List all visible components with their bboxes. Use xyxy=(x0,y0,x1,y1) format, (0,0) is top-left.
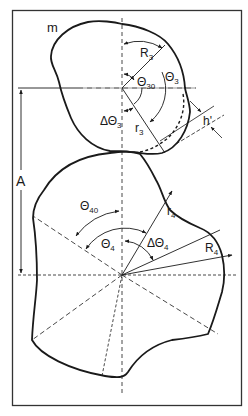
diagram-frame xyxy=(13,11,242,406)
upper-radius-min-label: r3 xyxy=(135,121,144,137)
upper-angle-initial-label: Θ30 xyxy=(137,75,156,91)
upper-angle-label: Θ3 xyxy=(165,70,179,86)
lower-radial-lower-left xyxy=(32,275,122,340)
center-distance-label: A xyxy=(16,173,26,189)
offset-line-inner xyxy=(176,115,224,144)
lower-radius-min-line xyxy=(122,191,172,275)
upper-radius-min-line xyxy=(122,88,165,153)
upper-angle-arc xyxy=(150,72,166,122)
lower-radius-min-label: r4 xyxy=(167,204,176,220)
offset-arrow-upper xyxy=(190,101,201,112)
lower-angle-arc xyxy=(86,228,146,249)
lower-radius-max-line xyxy=(122,255,232,275)
lower-angle-label: Θ4 xyxy=(101,237,115,253)
offset-arrow-lower xyxy=(211,127,222,138)
cam-geometry-diagram: m R3 Θ30 Θ3 ΔΘ3 r3 h' A Θ40 r4 Θ4 ΔΘ4 R4 xyxy=(0,0,248,416)
upper-angle-delta-arc xyxy=(124,108,133,111)
lower-radial-bottom xyxy=(102,275,122,376)
upper-angle-delta-label: ΔΘ3 xyxy=(100,114,122,130)
offset-label: h' xyxy=(203,114,212,128)
upper-radius-max-label: R3 xyxy=(140,46,154,62)
lower-radial-lower-right xyxy=(122,275,218,334)
upper-cam-label: m xyxy=(47,20,58,35)
lower-angle-delta-label: ΔΘ4 xyxy=(147,236,169,252)
upper-angle-delta-arc-bottom xyxy=(134,88,142,104)
lower-angle-initial-label: Θ40 xyxy=(80,199,99,215)
